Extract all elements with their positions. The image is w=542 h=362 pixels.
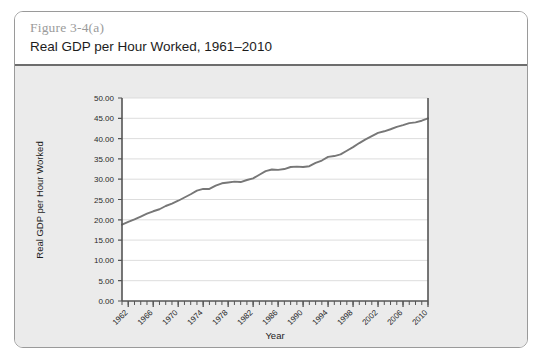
y-tick-label: 30.00 — [94, 175, 115, 184]
x-tick-label-group: 1962196619701974197819821986199019941998… — [111, 308, 430, 327]
y-tick-label: 25.00 — [94, 196, 115, 205]
x-tick-group — [128, 301, 428, 307]
y-tick-label: 50.00 — [94, 94, 115, 103]
y-tick-label: 0.00 — [98, 297, 114, 306]
page-title: Real GDP per Hour Worked, 1961–2010 — [30, 39, 272, 54]
x-tick-label: 1998 — [336, 308, 355, 327]
y-tick-label: 5.00 — [98, 277, 114, 286]
y-tick-label: 35.00 — [94, 155, 115, 164]
x-tick-label: 1986 — [261, 308, 280, 327]
figure-number: Figure 3-4(a) — [30, 20, 104, 36]
y-axis-title: Real GDP per Hour Worked — [34, 141, 45, 258]
x-tick-label: 2006 — [385, 308, 404, 327]
x-tick-label: 1982 — [236, 308, 255, 327]
gdp-per-hour-line-chart: 0.005.0010.0015.0020.0025.0030.0035.0040… — [15, 66, 527, 347]
x-tick-label: 2002 — [361, 308, 380, 327]
x-tick-label: 1962 — [111, 308, 130, 327]
chart-panel: 0.005.0010.0015.0020.0025.0030.0035.0040… — [15, 66, 527, 347]
x-tick-label: 1994 — [311, 308, 330, 327]
figure-card: Figure 3-4(a) Real GDP per Hour Worked, … — [14, 11, 528, 348]
x-axis-title: Year — [265, 330, 284, 341]
y-tick-label: 45.00 — [94, 114, 115, 123]
x-tick-label: 1974 — [186, 308, 205, 327]
x-tick-label: 2010 — [410, 308, 429, 327]
x-tick-label: 1978 — [211, 308, 230, 327]
x-tick-label: 1970 — [161, 308, 180, 327]
y-tick-label: 15.00 — [94, 236, 115, 245]
y-tick-label: 20.00 — [94, 216, 115, 225]
x-tick-label: 1966 — [136, 308, 155, 327]
y-tick-label: 10.00 — [94, 256, 115, 265]
y-tick-label: 40.00 — [94, 135, 115, 144]
figure-header: Figure 3-4(a) Real GDP per Hour Worked, … — [15, 12, 527, 64]
x-tick-label: 1990 — [286, 308, 305, 327]
y-tick-label-group: 0.005.0010.0015.0020.0025.0030.0035.0040… — [94, 94, 115, 306]
